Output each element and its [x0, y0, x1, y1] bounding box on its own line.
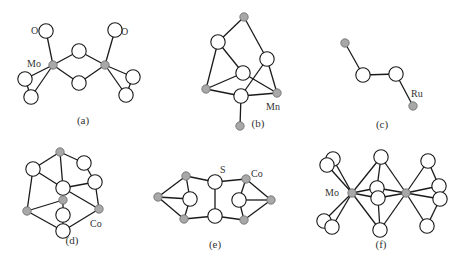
ligand-atom-icon [119, 88, 133, 102]
ligand-atom-icon [356, 68, 370, 82]
ligand-atom-icon [77, 156, 91, 170]
atom-label: Mo [27, 58, 41, 69]
ligand-atom-icon [183, 192, 197, 206]
ligand-atom-icon [432, 179, 446, 193]
bond [27, 200, 63, 211]
ligand-atom-icon [39, 24, 53, 38]
metal-atom-icon [242, 175, 250, 183]
ligand-atom-icon [373, 223, 387, 237]
atom-label: O [121, 26, 128, 37]
panel-caption: (d) [66, 234, 79, 247]
metal-atom-icon [202, 85, 210, 93]
metal-atom-icon [59, 196, 67, 204]
metal-atom-icon [23, 207, 31, 215]
ligand-atom-icon [126, 70, 140, 84]
panel-d-labels: Co(d) [66, 218, 102, 247]
ligand-atom-icon [234, 89, 248, 103]
ligand-atom-icon [72, 44, 86, 58]
ligand-atom-icon [18, 72, 32, 86]
ligand-atom-icon [320, 158, 334, 172]
panel-caption: (b) [252, 117, 265, 130]
metal-atom-icon [240, 13, 248, 21]
ligand-atom-icon [433, 192, 447, 206]
ligand-atom-icon [26, 162, 40, 176]
ligand-atom-icon [72, 76, 86, 90]
metal-atom-icon [154, 193, 162, 201]
panel-b-labels: Mn(b) [252, 101, 280, 130]
atom-label: S [220, 164, 226, 175]
bond [158, 197, 184, 219]
atom-label: Mn [266, 101, 280, 112]
ligand-atom-icon [325, 220, 339, 234]
metal-atom-icon [180, 215, 188, 223]
bond [246, 179, 271, 200]
metal-atom-icon [49, 61, 57, 69]
ligand-atom-icon [420, 219, 434, 233]
metal-atom-icon [240, 216, 248, 224]
molecular-structures-figure: OMoO(a)Mn(b)Ru(c)Co(d)SCo(e)Mo(f) [0, 0, 466, 262]
ligand-atom-icon [421, 154, 435, 168]
panel-caption: (e) [209, 238, 222, 251]
atom-label: O [31, 25, 38, 36]
ligand-atom-icon [389, 67, 403, 81]
metal-atom-icon [341, 39, 349, 47]
panel-caption: (a) [77, 114, 90, 127]
ligand-atom-icon [208, 175, 222, 189]
structures-canvas: OMoO(a)Mn(b)Ru(c)Co(d)SCo(e)Mo(f) [0, 0, 466, 262]
ligand-atom-icon [88, 175, 102, 189]
ligand-atom-icon [371, 191, 385, 205]
atom-label: Ru [411, 88, 423, 99]
bond [244, 200, 271, 220]
atom-label: Mo [325, 187, 339, 198]
ligand-atom-icon [208, 209, 222, 223]
atom-label: Co [251, 168, 263, 179]
panel-caption: (f) [376, 238, 387, 251]
ligand-atom-icon [232, 193, 246, 207]
ligand-atom-icon [211, 35, 225, 49]
panel-caption: (c) [376, 118, 389, 131]
ligand-atom-icon [374, 150, 388, 164]
metal-atom-icon [402, 189, 410, 197]
metal-atom-icon [95, 205, 103, 213]
ligand-atom-icon [260, 52, 274, 66]
metal-atom-icon [267, 196, 275, 204]
panel-b-atoms [202, 13, 281, 130]
metal-atom-icon [182, 172, 190, 180]
metal-atom-icon [273, 89, 281, 97]
ligand-atom-icon [56, 208, 70, 222]
bond [158, 176, 186, 197]
metal-atom-icon [348, 189, 356, 197]
ligand-atom-icon [24, 90, 38, 104]
metal-atom-icon [101, 61, 109, 69]
metal-atom-icon [409, 102, 417, 110]
ligand-atom-icon [236, 66, 250, 80]
atom-label: Co [90, 218, 102, 229]
ligand-atom-icon [56, 181, 70, 195]
metal-atom-icon [56, 148, 64, 156]
metal-atom-icon [236, 122, 244, 130]
